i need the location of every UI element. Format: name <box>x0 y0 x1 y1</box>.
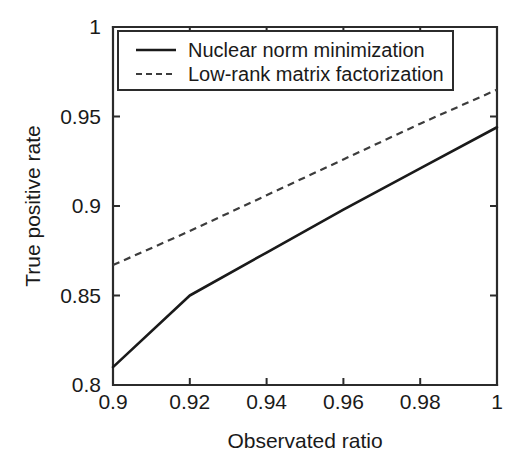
series-line-nuclear-norm-minimization <box>113 127 497 367</box>
x-tick-label-2: 0.94 <box>246 390 287 413</box>
y-axis-tick-labels: 0.80.850.90.951 <box>60 15 101 396</box>
data-series-group <box>113 90 497 367</box>
y-tick-label-3: 0.95 <box>60 105 101 128</box>
x-tick-label-4: 0.98 <box>400 390 441 413</box>
legend[interactable]: Nuclear norm minimization Low-rank matri… <box>118 31 453 90</box>
figure-container: 0.90.920.940.960.981 0.80.850.90.951 Obs… <box>0 0 527 460</box>
series-line-low-rank-matrix-factorization <box>113 90 497 265</box>
y-tick-label-2: 0.9 <box>72 194 101 217</box>
y-tick-label-0: 0.8 <box>72 373 101 396</box>
x-tick-label-3: 0.96 <box>323 390 364 413</box>
x-tick-label-1: 0.92 <box>169 390 210 413</box>
legend-label-nuclear-norm-minimization: Nuclear norm minimization <box>188 39 425 61</box>
legend-label-low-rank-matrix-factorization: Low-rank matrix factorization <box>188 63 444 85</box>
x-tick-label-5: 1 <box>491 390 503 413</box>
y-tick-label-1: 0.85 <box>60 284 101 307</box>
y-tick-label-4: 1 <box>89 15 101 38</box>
x-axis-title: Observated ratio <box>227 429 382 452</box>
line-chart: 0.90.920.940.960.981 0.80.850.90.951 Obs… <box>0 0 527 460</box>
x-tick-label-0: 0.9 <box>98 390 127 413</box>
x-axis-tick-labels: 0.90.920.940.960.981 <box>98 390 502 413</box>
y-axis-title: True positive rate <box>21 125 44 286</box>
